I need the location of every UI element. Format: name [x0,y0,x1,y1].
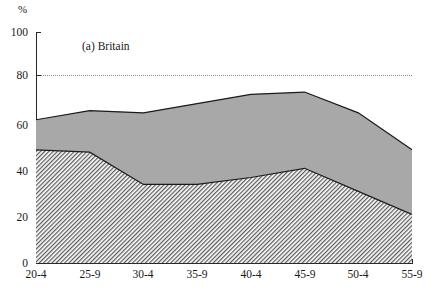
x-tick-label-5: 45-9 [275,268,335,280]
y-tick-label-80: 80 [0,70,28,82]
x-tick-label-4: 40-4 [221,268,281,280]
x-tick-label-3: 35-9 [167,268,227,280]
x-tick-label-6: 50-4 [328,268,388,280]
y-tick-label-40: 40 [0,166,28,178]
x-tick-label-2: 30-4 [113,268,173,280]
y-tick-label-100: 100 [0,27,28,39]
x-tick-label-7: 55-9 [382,268,434,280]
y-axis-unit-label: % [18,4,27,15]
y-tick-label-60: 60 [0,120,28,132]
y-tick-label-20: 20 [0,212,28,224]
x-axis-line [36,263,412,264]
series-area-plot [36,32,412,263]
x-tick-label-0: 20-4 [6,268,66,280]
chart-figure: % 100 80 60 40 20 0 20-4 25-9 30-4 35-9 … [0,0,434,290]
x-tick-mark-7 [412,259,413,264]
x-tick-label-1: 25-9 [60,268,120,280]
